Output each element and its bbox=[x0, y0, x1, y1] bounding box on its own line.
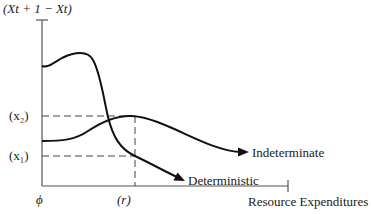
indeterminate-arrowhead bbox=[238, 148, 249, 157]
y-axis-title: (Xt + 1 − Xt) bbox=[3, 1, 72, 17]
x-axis-title: Resource Expenditures bbox=[248, 194, 368, 210]
reference-lines bbox=[42, 116, 135, 186]
axes bbox=[36, 20, 288, 192]
x2-tick-label: (x₂) bbox=[9, 108, 29, 124]
x1-tick-label: (x₁) bbox=[9, 148, 29, 164]
indeterminate-curve bbox=[42, 116, 240, 152]
chart-canvas bbox=[0, 0, 371, 214]
deterministic-curve bbox=[42, 53, 177, 177]
origin-label: ϕ bbox=[36, 192, 43, 208]
r-tick-label: (r) bbox=[117, 192, 131, 208]
deterministic-label: Deterministic bbox=[188, 173, 259, 189]
indeterminate-label: Indeterminate bbox=[252, 145, 324, 161]
